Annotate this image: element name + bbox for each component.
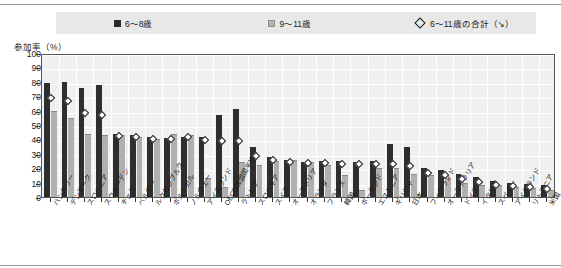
x-tick-mark [170,198,171,202]
gridline-vertical [128,55,129,197]
x-tick-mark [135,198,136,202]
y-tick-mark [36,54,40,55]
gridline-vertical [145,55,146,197]
x-tick-mark [444,198,445,202]
bar-9-11 [291,160,297,197]
gridline-vertical [333,55,334,197]
bar-9-11 [51,111,57,197]
gridline-vertical [419,55,420,197]
gridline-horizontal [42,55,554,56]
bottom-divider [0,265,561,266]
gridline-horizontal [42,69,554,70]
x-tick-mark [341,198,342,202]
x-tick-mark [289,198,290,202]
x-tick-mark [409,198,410,202]
y-tick-mark [36,184,40,185]
gridline-horizontal [42,84,554,85]
x-tick-mark [461,198,462,202]
y-tick-mark [36,83,40,84]
x-tick-mark [375,198,376,202]
legend-label-9-11: 9〜11歳 [279,17,311,29]
chart-legend: 6〜8歳 9〜11歳 6〜11歳の合計（↘） [56,12,536,34]
y-tick-mark [36,112,40,113]
x-tick-mark [512,198,513,202]
x-tick-mark [546,198,547,202]
gridline-vertical [265,55,266,197]
gridline-vertical [368,55,369,197]
x-tick-mark [67,198,68,202]
gridline-horizontal [42,113,554,114]
x-tick-mark [529,198,530,202]
legend-label-6-8: 6〜8歳 [125,17,152,29]
legend-swatch-diamond-icon [414,17,425,28]
gridline-vertical [385,55,386,197]
legend-swatch-light-square-icon [268,20,275,27]
legend-swatch-dark-square-icon [114,20,121,27]
gridline-vertical [350,55,351,197]
x-tick-mark [307,198,308,202]
y-axis: 0102030405060708090100 [0,54,41,198]
gridline-vertical [453,55,454,197]
y-tick-mark [36,126,40,127]
gridline-vertical [76,55,77,197]
y-tick-mark [36,169,40,170]
x-tick-mark [84,198,85,202]
gridline-vertical [93,55,94,197]
gridline-vertical [230,55,231,197]
x-tick-mark [238,198,239,202]
gridline-horizontal [42,127,554,128]
gridline-vertical [196,55,197,197]
x-tick-mark [324,198,325,202]
x-tick-mark [118,198,119,202]
gridline-vertical [505,55,506,197]
gridline-horizontal [42,98,554,99]
x-tick-mark [101,198,102,202]
gridline-vertical [179,55,180,197]
legend-item-6-8: 6〜8歳 [114,17,152,29]
x-tick-mark [495,198,496,202]
y-tick-mark [36,68,40,69]
x-tick-mark [272,198,273,202]
gridline-vertical [402,55,403,197]
y-tick-mark [36,198,40,199]
x-tick-mark [50,198,51,202]
gridline-vertical [248,55,249,197]
gridline-vertical [282,55,283,197]
bar-9-11 [102,135,108,197]
x-tick-mark [152,198,153,202]
legend-label-total: 6〜11歳の合計（↘） [430,17,514,29]
legend-item-total: 6〜11歳の合計（↘） [415,17,514,29]
y-tick-mark [36,140,40,141]
gridline-vertical [213,55,214,197]
x-tick-mark [478,198,479,202]
x-tick-mark [427,198,428,202]
x-tick-mark [255,198,256,202]
y-tick-mark [36,97,40,98]
bar-9-11 [137,137,143,197]
gridline-vertical [539,55,540,197]
gridline-vertical [299,55,300,197]
gridline-vertical [436,55,437,197]
x-tick-mark [187,198,188,202]
gridline-vertical [470,55,471,197]
gridline-vertical [162,55,163,197]
x-tick-mark [392,198,393,202]
gridline-vertical [59,55,60,197]
x-tick-mark [358,198,359,202]
legend-item-9-11: 9〜11歳 [268,17,311,29]
y-tick-mark [36,155,40,156]
gridline-vertical [111,55,112,197]
top-divider [0,4,561,5]
x-tick-mark [204,198,205,202]
x-tick-mark [221,198,222,202]
gridline-vertical [487,55,488,197]
gridline-vertical [316,55,317,197]
bar-9-11 [154,139,160,197]
gridline-vertical [522,55,523,197]
